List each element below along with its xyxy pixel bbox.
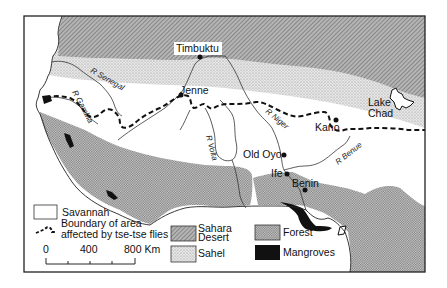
- place-old-oyo: Old Oyo: [243, 148, 287, 160]
- city-dot-icon: [285, 172, 290, 177]
- mangroves-swatch: [255, 245, 280, 260]
- place-label: Ife: [271, 167, 283, 179]
- scale-tick-label: 800 Km: [124, 243, 160, 255]
- place-jenne: Jenne: [179, 84, 209, 98]
- legend-mangroves: Mangroves: [255, 245, 335, 260]
- place-label: Jenne: [180, 84, 209, 96]
- scale-tick-label: 400: [80, 243, 98, 255]
- west-africa-vegetation-map: Timbuktu Jenne Kano Old Oyo Ife Benin La…: [0, 0, 447, 288]
- sahara-swatch: [171, 226, 196, 241]
- city-dot-icon: [198, 55, 203, 60]
- legend-label: Mangroves: [283, 246, 335, 258]
- savannah-swatch: [34, 205, 57, 219]
- legend-forest: Forest: [255, 225, 313, 240]
- city-dot-icon: [282, 153, 287, 158]
- forest-swatch: [255, 225, 280, 240]
- place-label: Benin: [292, 177, 319, 189]
- legend-label: Forest: [283, 226, 313, 238]
- place-label: Timbuktu: [176, 42, 219, 54]
- place-label: Old Oyo: [243, 148, 282, 160]
- legend-label: Desert: [198, 231, 229, 243]
- place-label: Kano: [315, 121, 340, 133]
- legend-label: Sahel: [198, 247, 225, 259]
- lake-chad-label-2: Chad: [368, 107, 393, 119]
- legend-label: affected by tse-tse flies: [61, 228, 168, 240]
- scale-tick-label: 0: [43, 243, 49, 255]
- sahel-swatch: [171, 246, 196, 262]
